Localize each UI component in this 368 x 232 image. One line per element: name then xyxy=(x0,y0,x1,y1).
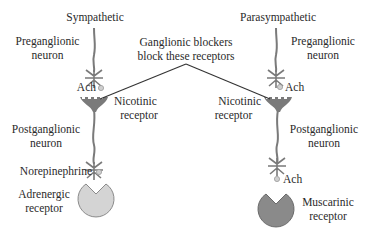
parasympathetic-nicotinic-label-2: receptor xyxy=(206,109,261,122)
parasympathetic-nicotinic-receptor-icon xyxy=(264,97,292,112)
callout-label-1: Ganglionic blockers xyxy=(128,36,244,49)
sympathetic-postganglionic-label-1: Postganglionic xyxy=(4,123,88,136)
muscarinic-label-1: Muscarinic xyxy=(296,196,360,209)
sympathetic-nicotinic-receptor-icon xyxy=(80,97,108,112)
sympathetic-ach-label: Ach xyxy=(60,81,96,94)
sympathetic-preganglionic-label-2: neuron xyxy=(10,49,85,62)
parasympathetic-ach-molecule-icon xyxy=(277,84,282,89)
callout-label-2: block these receptors xyxy=(128,50,244,63)
parasympathetic-postganglionic-axon xyxy=(276,110,278,164)
parasympathetic-ach2-label: Ach xyxy=(283,173,302,186)
sympathetic-preganglionic-axon xyxy=(93,28,95,72)
sympathetic-postganglionic-axon xyxy=(93,110,95,164)
norepinephrine-molecule-icon xyxy=(96,169,101,174)
parasympathetic-postganglionic-label-2: neuron xyxy=(282,137,366,150)
sympathetic-preganglionic-label-1: Preganglionic xyxy=(10,35,85,48)
muscarinic-label-2: receptor xyxy=(296,210,360,223)
parasympathetic-preganglionic-label-1: Preganglionic xyxy=(284,35,362,48)
sympathetic-ach-molecule-icon xyxy=(98,85,103,90)
parasympathetic-preganglionic-label-2: neuron xyxy=(284,49,362,62)
muscarinic-receptor-icon xyxy=(258,194,294,227)
parasympathetic-preganglionic-axon xyxy=(275,28,277,72)
parasympathetic-title: Parasympathetic xyxy=(236,11,320,24)
sympathetic-nicotinic-label-2: receptor xyxy=(114,109,164,122)
parasympathetic-postganglionic-label-1: Postganglionic xyxy=(282,123,366,136)
adrenergic-label-2: receptor xyxy=(12,202,76,215)
norepinephrine-label: Norepinephrine xyxy=(4,165,92,178)
sympathetic-nicotinic-label-1: Nicotinic xyxy=(114,95,157,108)
callout-line-left xyxy=(100,64,186,99)
callout-line-right xyxy=(186,64,270,99)
parasympathetic-ach-label: Ach xyxy=(285,81,304,94)
adrenergic-label-1: Adrenergic xyxy=(12,188,76,201)
parasympathetic-ach2-molecule-icon xyxy=(274,176,279,181)
adrenergic-receptor-icon xyxy=(78,184,114,217)
parasympathetic-nicotinic-label-1: Nicotinic xyxy=(206,95,261,108)
sympathetic-title: Sympathetic xyxy=(60,11,130,24)
sympathetic-postganglionic-label-2: neuron xyxy=(4,137,88,150)
